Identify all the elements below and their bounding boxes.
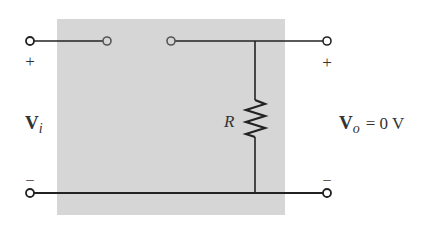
- output-voltage-equation: = 0 V: [366, 114, 405, 133]
- output-voltage-main: V: [339, 112, 353, 133]
- shaded-region: [57, 19, 285, 215]
- input-voltage-main: V: [25, 112, 39, 133]
- input-terminal-bottom: [26, 189, 34, 197]
- circuit-diagram: + + – – Vi R Vo= 0 V: [0, 0, 421, 228]
- input-voltage-label: Vi: [25, 112, 43, 136]
- output-minus-label: –: [322, 171, 331, 187]
- input-voltage-sub: i: [39, 121, 43, 136]
- input-terminal-top: [26, 37, 34, 45]
- output-plus-label: +: [322, 53, 332, 72]
- resistor-label: R: [223, 112, 235, 131]
- input-plus-label: +: [25, 52, 35, 71]
- output-terminal-top: [323, 37, 331, 45]
- output-terminal-bottom: [323, 189, 331, 197]
- input-minus-label: –: [25, 171, 34, 187]
- output-voltage-label: Vo= 0 V: [339, 112, 405, 136]
- output-voltage-sub: o: [353, 121, 360, 136]
